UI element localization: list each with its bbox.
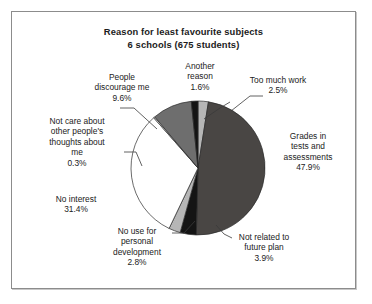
pie-label-line: personal [98,236,176,246]
pie-label-line: Another [170,61,230,71]
pie-label-no-interest: No interest 31.4% [32,194,120,215]
pie-label-line: Too much work [234,75,322,85]
pie-label-line: assessments [266,152,350,162]
pie-label-value: 9.6% [74,93,170,103]
pie-label-grades-in-tests-and-assessments: Grades in tests and assessments 47.9% [266,131,350,173]
pie-label-line: me [28,147,126,157]
pie-label-no-use-for-personal-development: No use for personal development 2.8% [98,226,176,268]
pie-label-line: No interest [32,194,120,204]
pie-label-value: 2.8% [98,257,176,267]
pie-label-not-care-about-other-peoples-thoughts: Not care about other people's thoughts a… [28,116,126,168]
pie-label-line: reason [170,71,230,81]
pie-label-value: 47.9% [266,162,350,172]
pie-label-line: No use for [98,226,176,236]
pie-label-line: discourage me [74,82,170,92]
pie-slice [196,102,265,235]
pie-label-value: 0.3% [28,158,126,168]
pie-label-line: Not related to [218,232,310,242]
pie-label-line: development [98,247,176,257]
pie-label-value: 2.5% [234,85,322,95]
pie-label-line: future plan [218,242,310,252]
pie-label-value: 3.9% [218,253,310,263]
pie-slices [131,101,265,235]
pie-label-value: 31.4% [32,204,120,214]
pie-label-line: tests and [266,141,350,151]
pie-label-line: Not care about [28,116,126,126]
pie-label-not-related-to-future-plan: Not related to future plan 3.9% [218,232,310,263]
pie-label-line: thoughts about [28,137,126,147]
pie-label-line: other people's [28,126,126,136]
pie-label-people-discourage-me: People discourage me 9.6% [74,72,170,103]
pie-label-line: People [74,72,170,82]
pie-label-too-much-work: Too much work 2.5% [234,75,322,96]
leader-line-too-much-work [231,96,263,111]
chart-frame: Reason for least favourite subjects 6 sc… [11,11,356,289]
pie-label-another-reason: Another reason 1.6% [170,61,230,92]
pie-label-line: Grades in [266,131,350,141]
pie-label-value: 1.6% [170,82,230,92]
